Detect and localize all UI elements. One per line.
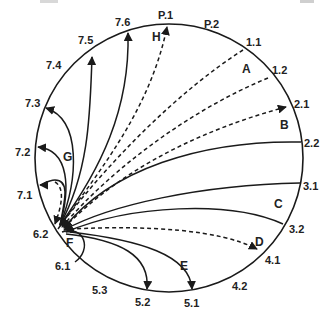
point-label-P-2: P.2 [204,18,219,30]
point-label-5-2: 5.2 [135,296,150,308]
point-label-4-2: 4.2 [232,280,247,292]
region-label-h: H [152,30,161,44]
point-label-5-3: 5.3 [92,284,107,296]
point-label-7-6: 7.6 [115,16,130,28]
point-label-1-1: 1.1 [246,36,261,48]
region-label-c: C [274,197,283,211]
edge-hub-to-7-6 [60,33,128,225]
region-labels-layer: HABCDEFG [63,30,289,273]
outer-circle [35,24,303,292]
point-label-7-4: 7.4 [46,59,62,71]
region-label-g: G [63,150,72,164]
edge-2-1-to-hub [64,107,286,228]
edge-hub-to-5-2 [66,234,147,289]
edge-hub-to-5-1 [70,232,192,289]
point-label-7-2: 7.2 [15,146,30,158]
point-label-4-1: 4.1 [265,254,280,266]
edge-hub-to-4-1 [70,228,257,249]
point-label-3-1: 3.1 [303,180,318,192]
edge-7-1-to-hub [55,182,61,224]
region-label-d: D [255,235,264,249]
point-label-7-1: 7.1 [17,189,32,201]
point-label-P-1: P.1 [158,9,173,21]
point-label-1-2: 1.2 [272,64,287,76]
point-labels-layer: P.1P.21.11.22.12.23.13.24.14.25.15.25.36… [15,9,319,309]
point-label-6-2: 6.2 [33,228,48,240]
point-label-6-1: 6.1 [55,260,70,272]
circular-flow-diagram: P.1P.21.11.22.12.23.13.24.14.25.15.25.36… [0,0,330,324]
point-label-2-1: 2.1 [294,98,309,110]
edge-1-2-to-hub [62,78,268,227]
edge-3-1-to-hub [64,183,300,230]
point-label-5-1: 5.1 [184,297,199,309]
point-label-7-3: 7.3 [25,97,40,109]
point-label-3-2: 3.2 [289,223,304,235]
edges-layer [38,27,301,289]
region-label-a: A [242,62,251,76]
region-label-f: F [66,236,73,250]
point-label-7-5: 7.5 [78,34,93,46]
cropped-top-fragments [40,0,314,3]
point-label-2-2: 2.2 [304,137,319,149]
region-label-b: B [280,118,289,132]
region-label-e: E [180,259,188,273]
